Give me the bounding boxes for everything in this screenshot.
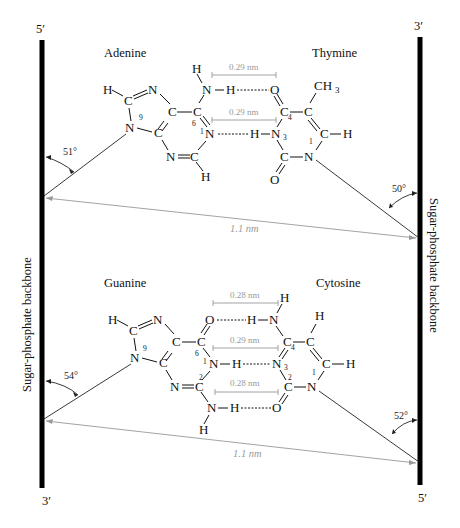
atom-c: C xyxy=(304,104,313,119)
diagram-canvas: 5′ 3′ 3′ 5′ Sugar-phosphate backbone Sug… xyxy=(0,0,460,528)
atom-c: C xyxy=(320,126,329,141)
hbond-distance: 0.29 nm xyxy=(229,107,259,117)
atom-index: 9 xyxy=(143,344,147,353)
guanine-cytosine-pair: Guanine Cytosine H C N C N 9 C C 6 O N 1… xyxy=(44,276,419,465)
left-bottom-end-label: 3′ xyxy=(42,494,51,508)
atom-n9: N xyxy=(125,120,135,135)
atom-h: H xyxy=(201,169,210,184)
atom-h: H xyxy=(346,356,355,371)
angle-label: 52° xyxy=(394,410,408,421)
methyl-group: CH xyxy=(314,78,332,93)
adenine-label: Adenine xyxy=(104,46,147,60)
adenine-thymine-pair: Adenine Thymine H C N C N 9 C C 6 N H N … xyxy=(44,46,419,240)
left-backbone-label: Sugar-phosphate backbone xyxy=(20,257,34,392)
atom-n1: N xyxy=(307,379,317,394)
atom-index: 1 xyxy=(309,137,313,146)
atom-index: 2 xyxy=(288,373,292,382)
atom-o: O xyxy=(272,400,281,415)
atom-n: N xyxy=(170,379,180,394)
atom-c: C xyxy=(190,149,199,164)
angle-label: 54° xyxy=(64,370,78,381)
atom-n1: N xyxy=(205,126,215,141)
atom-o: O xyxy=(270,172,279,187)
atom-h: H xyxy=(199,422,208,437)
atom-n1: N xyxy=(209,356,219,371)
right-bottom-end-label: 5′ xyxy=(418,491,427,505)
atom-o: O xyxy=(205,312,214,327)
atom-h: H xyxy=(232,356,241,371)
guanine-label: Guanine xyxy=(104,276,147,290)
atom-index: 6 xyxy=(195,349,199,358)
atom-n: N xyxy=(148,82,158,97)
atom-h: H xyxy=(230,400,239,415)
atom-c6: C xyxy=(193,104,202,119)
atom-n: N xyxy=(207,400,217,415)
atom-n: N xyxy=(166,149,176,164)
atom-n1: N xyxy=(304,149,314,164)
atom-c: C xyxy=(168,104,177,119)
hbond-distance: 0.29 nm xyxy=(230,335,260,345)
right-top-end-label: 3′ xyxy=(414,19,423,33)
subscript: 3 xyxy=(335,85,340,95)
atom-n9: N xyxy=(130,350,140,365)
atom-index: 1 xyxy=(200,127,204,136)
c1-distance: 1.1 nm xyxy=(233,448,262,459)
atom-h: H xyxy=(108,312,117,327)
atom-c6: C xyxy=(197,334,206,349)
atom-index: 1 xyxy=(312,368,316,377)
atom-n3: N xyxy=(271,126,281,141)
atom-h: H xyxy=(226,82,235,97)
right-backbone-label: Sugar-phosphate backbone xyxy=(427,198,441,333)
atom-h: H xyxy=(343,126,352,141)
atom-h: H xyxy=(250,126,259,141)
atom-c: C xyxy=(306,334,315,349)
atom-h: H xyxy=(280,290,289,305)
thymine-label: Thymine xyxy=(312,46,358,60)
atom-index: 3 xyxy=(283,133,287,142)
atom-h: H xyxy=(247,312,256,327)
angle-label: 51° xyxy=(63,146,77,157)
atom-c: C xyxy=(172,334,181,349)
atom-h: H xyxy=(315,308,324,323)
atom-n: N xyxy=(153,312,163,327)
atom-n3: N xyxy=(272,356,282,371)
atom-n: N xyxy=(202,82,212,97)
atom-c: C xyxy=(322,356,331,371)
atom-c: C xyxy=(154,125,163,140)
atom-h: H xyxy=(192,61,201,76)
atom-c: C xyxy=(124,93,133,108)
hbond-distance: 0.29 nm xyxy=(229,62,259,72)
atom-h: H xyxy=(103,82,112,97)
c1-distance: 1.1 nm xyxy=(230,223,259,234)
base-pairing-diagram: 5′ 3′ 3′ 5′ Sugar-phosphate backbone Sug… xyxy=(0,0,460,528)
left-top-end-label: 5′ xyxy=(36,22,45,36)
hbond-distance: 0.28 nm xyxy=(230,378,260,388)
atom-index: 6 xyxy=(192,119,196,128)
atom-index: 2 xyxy=(199,373,203,382)
hbond-distance: 0.28 nm xyxy=(230,290,260,300)
atom-n: N xyxy=(269,312,279,327)
atom-c: C xyxy=(129,323,138,338)
atom-index: 9 xyxy=(139,113,143,122)
atom-index: 1 xyxy=(203,357,207,366)
atom-index: 3 xyxy=(284,363,288,372)
atom-index: 4 xyxy=(291,343,295,352)
atom-c2: C xyxy=(280,149,289,164)
atom-index: 4 xyxy=(288,113,292,122)
cytosine-label: Cytosine xyxy=(316,276,361,290)
angle-label: 50° xyxy=(392,183,406,194)
